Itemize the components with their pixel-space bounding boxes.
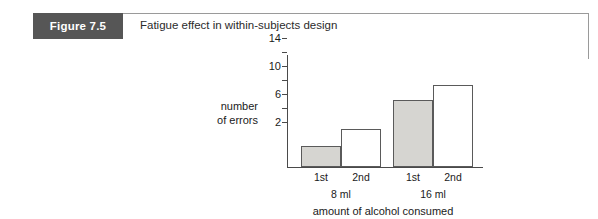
y-tick-2 [282,122,287,123]
bar-8ml-2nd [341,129,381,167]
figure-caption: Fatigue effect in within-subjects design [140,19,337,31]
y-axis-title-line-1: number [186,99,258,113]
y-tick-14 [282,38,287,39]
x-axis-line [287,167,483,168]
group-label-16ml: 16 ml [398,188,468,200]
y-tick-4 [282,108,287,109]
y-tick-8 [282,80,287,81]
y-axis-title-line-2: of errors [186,113,258,127]
bar-8ml-1st [301,146,341,167]
y-tick-label-10: 10 [255,61,281,72]
figure-container: Figure 7.5 Fatigue effect in within-subj… [0,0,598,219]
y-tick-6 [282,94,287,95]
y-axis-title: number of errors [186,99,258,127]
group-label-8ml: 8 ml [306,188,376,200]
y-tick-label-2: 2 [255,117,281,128]
y-tick-12 [282,52,287,53]
y-tick-label-14: 14 [255,33,281,44]
y-tick-10 [282,66,287,67]
figure-frame-right-rule [588,13,589,59]
x-tick-label-8ml-1st: 1st [301,171,341,183]
plot-area: 1st 2nd 1st 2nd 8 ml 16 ml [287,55,483,168]
bar-16ml-1st [393,100,433,167]
x-axis-title: amount of alcohol consumed [213,205,553,217]
figure-number-badge: Figure 7.5 [33,13,123,39]
bar-16ml-2nd [433,85,473,167]
y-axis-line [287,55,288,168]
y-axis-tick-labels: 2 6 10 14 [255,55,281,168]
x-tick-label-8ml-2nd: 2nd [341,171,381,183]
x-tick-label-16ml-1st: 1st [393,171,433,183]
bar-chart: number of errors 2 6 10 14 1st 2nd 1 [0,55,598,219]
y-tick-label-6: 6 [255,89,281,100]
x-tick-label-16ml-2nd: 2nd [433,171,473,183]
